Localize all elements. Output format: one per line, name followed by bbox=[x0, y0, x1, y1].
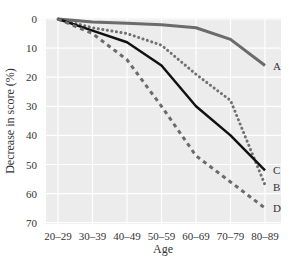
y-tick-label: 30 bbox=[26, 100, 38, 112]
y-tick-label: 10 bbox=[26, 42, 38, 54]
x-tick-label: 50–59 bbox=[148, 230, 176, 242]
y-tick-label: 50 bbox=[26, 159, 38, 171]
x-tick-label: 30–39 bbox=[79, 230, 107, 242]
series-label-d: D bbox=[273, 202, 281, 214]
series-label-b: B bbox=[273, 181, 280, 193]
series-label-c: C bbox=[273, 164, 280, 176]
x-axis-ticks: 20–2930–3940–4950–5960–6970–7980–89 bbox=[44, 230, 279, 242]
y-axis-label: Decrease in score (%) bbox=[3, 68, 17, 174]
x-tick-label: 40–49 bbox=[113, 230, 141, 242]
y-tick-label: 70 bbox=[26, 217, 38, 229]
y-tick-label: 40 bbox=[26, 129, 38, 141]
x-tick-label: 60–69 bbox=[182, 230, 210, 242]
y-tick-label: 0 bbox=[32, 13, 38, 25]
line-chart: 010203040506070 20–2930–3940–4950–5960–6… bbox=[0, 0, 296, 267]
y-tick-label: 60 bbox=[26, 188, 38, 200]
y-tick-label: 20 bbox=[26, 71, 38, 83]
x-tick-label: 70–79 bbox=[217, 230, 245, 242]
x-tick-label: 80–89 bbox=[251, 230, 279, 242]
y-axis-ticks: 010203040506070 bbox=[26, 13, 38, 229]
series-label-a: A bbox=[273, 60, 281, 72]
x-axis-label: Age bbox=[153, 242, 173, 256]
x-tick-label: 20–29 bbox=[44, 230, 72, 242]
